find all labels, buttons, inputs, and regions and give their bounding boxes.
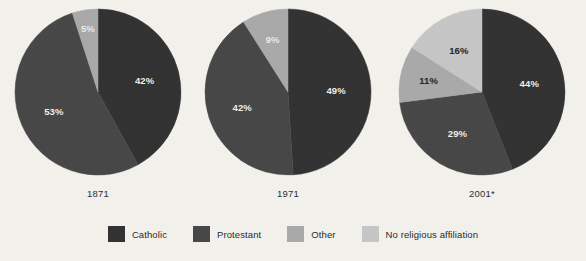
pie-chart-figure: 42%53%5%187149%42%9%197144%29%11%16%2001… [0,0,586,261]
pie-chart-2001: 44%29%11%16%2001* [398,8,566,176]
pie-chart-1871: 42%53%5%1871 [14,8,182,176]
legend-label: Catholic [132,229,167,240]
slice-value-label: 42% [233,101,252,112]
legend-swatch [287,226,304,242]
pie-year-label: 2001* [398,188,566,199]
pie-graphic: 42%53%5% [14,8,182,176]
slice-value-label: 29% [448,128,467,139]
legend-label: No religious affiliation [386,229,479,240]
slice-value-label: 11% [419,75,438,86]
legend-item-protestant[interactable]: Protestant [193,226,261,242]
legend-swatch [193,226,210,242]
legend-item-catholic[interactable]: Catholic [108,226,167,242]
slice-value-label: 16% [449,44,468,55]
pie-year-label: 1871 [14,188,182,199]
legend-label: Other [311,229,335,240]
slice-value-label: 42% [135,75,154,86]
legend-label: Protestant [217,229,261,240]
slice-value-label: 49% [326,85,345,96]
pie-svg [14,8,182,176]
slice-value-label: 9% [266,34,280,45]
legend-item-other[interactable]: Other [287,226,335,242]
legend-item-no-religious-affiliation[interactable]: No religious affiliation [362,226,479,242]
legend-swatch [362,226,379,242]
legend-swatch [108,226,125,242]
pie-chart-1971: 49%42%9%1971 [204,8,372,176]
pie-graphic: 49%42%9% [204,8,372,176]
pie-svg [204,8,372,176]
pie-charts-row: 42%53%5%187149%42%9%197144%29%11%16%2001… [0,0,586,215]
pie-graphic: 44%29%11%16% [398,8,566,176]
chart-legend: CatholicProtestantOtherNo religious affi… [0,226,586,242]
slice-value-label: 44% [520,77,539,88]
pie-year-label: 1971 [204,188,372,199]
pie-svg [398,8,566,176]
slice-value-label: 53% [44,106,63,117]
slice-value-label: 5% [81,23,95,34]
